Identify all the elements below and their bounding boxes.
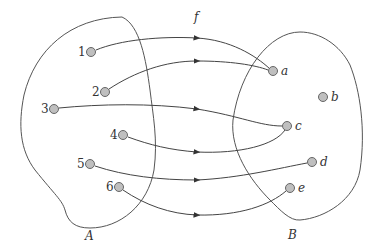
mapping-5-to-d xyxy=(95,163,307,180)
label-2: 2 xyxy=(92,85,100,99)
node-c xyxy=(283,122,292,131)
label-1: 1 xyxy=(78,45,86,59)
node-3 xyxy=(50,105,59,114)
set-b-label: B xyxy=(287,228,297,242)
label-d: d xyxy=(320,155,328,169)
function-mapping-diagram: 1 2 3 4 5 6 a b c d e f A B xyxy=(0,0,379,251)
label-4: 4 xyxy=(110,128,118,142)
label-c: c xyxy=(295,119,302,133)
mapping-4-to-c xyxy=(128,130,285,152)
mapping-6-to-e xyxy=(123,190,286,215)
mapping-3-to-c xyxy=(59,105,282,126)
set-a-label: A xyxy=(84,229,94,243)
node-a xyxy=(269,67,278,76)
domain-nodes xyxy=(50,48,128,192)
node-6 xyxy=(115,183,124,192)
node-e xyxy=(286,184,295,193)
label-5: 5 xyxy=(77,157,85,171)
node-d xyxy=(308,158,317,167)
label-a: a xyxy=(281,64,288,78)
node-2 xyxy=(101,88,110,97)
label-e: e xyxy=(298,181,305,195)
mapping-2-to-a xyxy=(109,61,268,89)
label-6: 6 xyxy=(106,180,114,194)
node-1 xyxy=(87,48,96,57)
label-3: 3 xyxy=(41,102,49,116)
label-b: b xyxy=(331,90,339,104)
node-b xyxy=(319,93,328,102)
function-label: f xyxy=(193,10,201,24)
node-5 xyxy=(86,160,95,169)
node-4 xyxy=(119,131,128,140)
